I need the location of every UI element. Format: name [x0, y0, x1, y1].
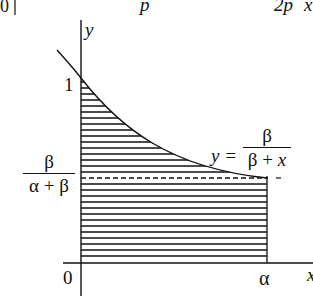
x-axis-label: x — [307, 265, 313, 284]
level-fraction-label: β α + β — [23, 152, 75, 195]
curve-numerator: β — [243, 126, 291, 147]
top-strip-x-label: x — [304, 0, 312, 14]
curve-denominator: β + x — [243, 148, 291, 169]
level-numerator: β — [23, 152, 75, 173]
alpha-label: α — [259, 268, 269, 288]
hatched-region — [81, 82, 270, 256]
origin-label: 0 — [63, 268, 73, 287]
level-denominator: α + β — [23, 174, 75, 195]
top-strip-p-label: p — [140, 0, 150, 14]
curve-equation-fraction: β β + x — [243, 126, 291, 169]
top-strip-2p-label: 2p — [274, 0, 293, 14]
curve-equation-lhs: y = — [211, 146, 237, 165]
one-label: 1 — [64, 75, 74, 94]
top-strip-zero-label: 0 — [0, 0, 9, 15]
y-axis-label: y — [85, 20, 93, 39]
